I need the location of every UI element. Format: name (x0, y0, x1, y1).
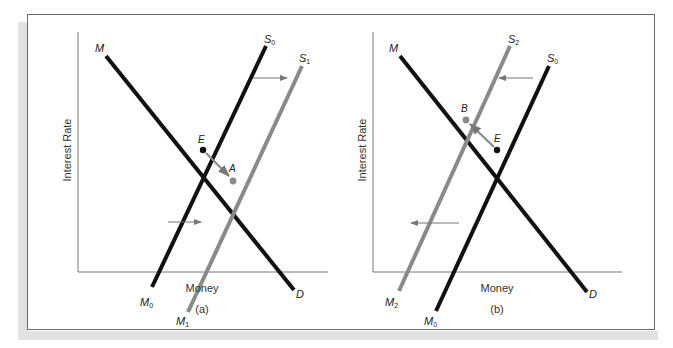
panel-a-y-axis-label: Interest Rate (61, 110, 73, 190)
panel-b-movement-arrow (470, 124, 494, 147)
panel-a-label-s1: S1 (299, 52, 310, 65)
panel-a-supply-curve-s0 (152, 46, 266, 287)
panel-b-label-m0: M0 (424, 315, 437, 328)
panel-a-label-d: D (296, 288, 304, 300)
panel-b-point-e (494, 147, 500, 153)
panel-b-x-axis-label: Money (447, 282, 547, 294)
panel-a-caption: (a) (152, 303, 252, 315)
panel-b-point-b (463, 117, 470, 124)
panel-a-label-m1: M1 (176, 315, 189, 328)
panel-a-demand-curve (106, 56, 294, 290)
panel-b-supply-curve-s2 (399, 46, 510, 291)
panel-a-label-s0: S0 (264, 33, 275, 46)
panel-a-label-a: A (228, 163, 236, 174)
panel-a-label-e: E (198, 134, 205, 145)
panel-b-label-d: D (589, 288, 597, 300)
panel-a-point-a (230, 178, 237, 185)
panel-b-demand-curve (400, 56, 587, 292)
panel-a-label-m: M (95, 42, 105, 54)
money-market-diagram: M D S0 S1 M0 M1 E A M D S2 S0 M2 M0 (0, 0, 673, 348)
panel-b-label-s2: S2 (508, 33, 519, 46)
panel-b-label-e: E (494, 133, 501, 144)
panel-b-y-axis-label: Interest Rate (356, 110, 368, 190)
panel-a-point-e (200, 147, 206, 153)
panel-b-label-s0: S0 (547, 52, 558, 65)
panel-a-supply-curve-s1 (188, 66, 302, 312)
panel-a-x-axis-label: Money (152, 282, 252, 294)
panel-b-label-m2: M2 (385, 296, 398, 309)
panel-b-label-m: M (389, 42, 399, 54)
panel-b-caption: (b) (447, 303, 547, 315)
panel-b-label-b: B (461, 103, 468, 114)
panel-b-supply-curve-s0 (436, 66, 549, 311)
